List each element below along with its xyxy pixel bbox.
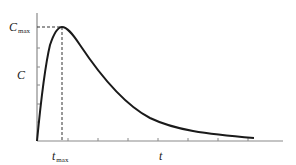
cmax-label: Cmax — [9, 21, 30, 35]
tmax-label-sub: max — [56, 156, 68, 164]
pharmacokinetic-chart — [0, 0, 296, 165]
y-axis-label-text: C — [17, 68, 25, 82]
tmax-label-main: t — [52, 149, 55, 163]
y-axis-label: C — [17, 69, 25, 81]
x-axis-label-text: t — [159, 149, 162, 163]
cmax-label-main: C — [9, 20, 17, 34]
tmax-label: tmax — [52, 150, 68, 164]
x-axis-label: t — [159, 150, 162, 162]
cmax-label-sub: max — [18, 27, 30, 35]
concentration-curve — [37, 27, 254, 141]
